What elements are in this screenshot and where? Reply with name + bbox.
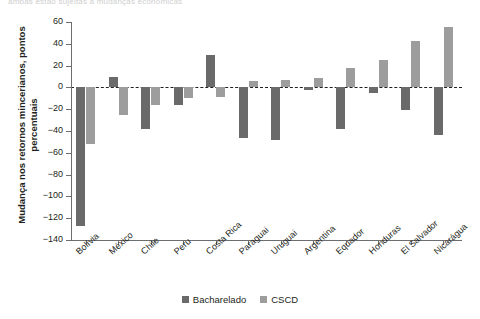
bar-cscd-10 [411, 41, 420, 88]
bar-bacharelado-9 [369, 87, 378, 92]
y-axis-tick [66, 109, 72, 110]
bar-cscd-3 [184, 87, 193, 98]
bar-bacharelado-7 [304, 87, 313, 89]
bar-bacharelado-2 [141, 87, 150, 128]
bar-cscd-8 [346, 68, 355, 88]
bar-bacharelado-10 [401, 87, 410, 110]
y-axis-tick-label: −20 [3, 103, 63, 113]
y-axis-tick [66, 44, 72, 45]
y-axis-tick-label: −100 [3, 190, 63, 200]
bar-chart: ambas estão sujeitas a mudanças econômic… [0, 0, 480, 319]
bar-cscd-2 [151, 87, 160, 104]
y-axis-tick [66, 240, 72, 241]
y-axis-tick-label: 20 [3, 60, 63, 70]
y-axis-tick [66, 218, 72, 219]
y-axis-tick-label: 40 [3, 38, 63, 48]
y-axis-tick-label: −80 [3, 169, 63, 179]
y-axis-tick [66, 153, 72, 154]
y-axis-tick-label: 60 [3, 16, 63, 26]
legend-swatch-icon [182, 296, 189, 303]
plot-area [72, 22, 462, 240]
y-axis-tick-label: −40 [3, 125, 63, 135]
bar-bacharelado-4 [206, 55, 215, 88]
bar-cscd-1 [119, 87, 128, 114]
bar-cscd-9 [379, 60, 388, 87]
y-axis-tick [66, 131, 72, 132]
bar-bacharelado-0 [76, 87, 85, 225]
y-axis-tick-label: −120 [3, 212, 63, 222]
y-axis-tick [66, 87, 72, 88]
bar-cscd-11 [444, 27, 453, 87]
bar-cscd-4 [216, 87, 225, 97]
legend-label: CSCD [271, 294, 298, 305]
bar-cscd-5 [249, 81, 258, 88]
bar-bacharelado-8 [336, 87, 345, 128]
y-axis-tick [66, 66, 72, 67]
y-axis-tick-label: −60 [3, 147, 63, 157]
bar-bacharelado-3 [174, 87, 183, 104]
y-axis-tick [66, 22, 72, 23]
bar-bacharelado-1 [109, 77, 118, 88]
bar-cscd-0 [86, 87, 95, 144]
legend-swatch-icon [260, 296, 267, 303]
legend-item-1: CSCD [260, 294, 298, 305]
y-axis-tick [66, 196, 72, 197]
legend-label: Bacharelado [193, 294, 246, 305]
bar-bacharelado-5 [239, 87, 248, 137]
legend: BachareladoCSCD [0, 294, 480, 305]
legend-item-0: Bacharelado [182, 294, 246, 305]
y-axis-tick-labels: 6040200−20−40−60−80−100−120−140 [0, 0, 63, 319]
bar-bacharelado-11 [434, 87, 443, 135]
bar-bacharelado-6 [271, 87, 280, 139]
y-axis-tick [66, 175, 72, 176]
y-axis-tick-label: 0 [3, 81, 63, 91]
y-axis-tick-label: −140 [3, 234, 63, 244]
bar-cscd-6 [281, 80, 290, 88]
bar-cscd-7 [314, 78, 323, 88]
